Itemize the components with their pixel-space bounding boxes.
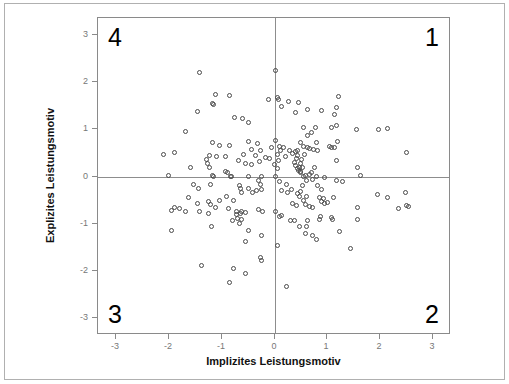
data-point bbox=[336, 94, 341, 99]
data-point bbox=[213, 92, 218, 97]
data-point bbox=[197, 70, 202, 75]
x-axis-label: Implizites Leistungsmotiv bbox=[97, 355, 450, 367]
y-tick-label: 0 bbox=[83, 171, 88, 181]
data-point bbox=[396, 206, 401, 211]
y-tick-label: -3 bbox=[80, 312, 88, 322]
data-point bbox=[297, 224, 302, 229]
data-point bbox=[197, 209, 202, 214]
data-point bbox=[355, 205, 360, 210]
data-point bbox=[331, 195, 336, 200]
data-point bbox=[224, 194, 229, 199]
data-point bbox=[232, 115, 237, 120]
data-point bbox=[199, 263, 204, 268]
data-point bbox=[207, 165, 212, 170]
data-point bbox=[301, 125, 306, 130]
data-point bbox=[340, 179, 345, 184]
data-point bbox=[183, 129, 188, 134]
data-point bbox=[210, 140, 215, 145]
data-point bbox=[273, 68, 278, 73]
data-point bbox=[406, 204, 411, 209]
data-point bbox=[286, 99, 291, 104]
data-point bbox=[309, 170, 314, 175]
data-point bbox=[209, 224, 214, 229]
data-point bbox=[334, 123, 339, 128]
data-point bbox=[211, 102, 216, 107]
x-tick-label: -1 bbox=[217, 341, 225, 351]
data-point bbox=[246, 174, 251, 179]
data-point bbox=[257, 159, 262, 164]
data-point bbox=[243, 161, 248, 166]
data-point bbox=[305, 107, 310, 112]
data-point bbox=[358, 173, 363, 178]
y-tick-label: -2 bbox=[80, 265, 88, 275]
data-point bbox=[283, 154, 288, 159]
data-point bbox=[213, 205, 218, 210]
y-tick-mark bbox=[92, 128, 97, 129]
data-point bbox=[302, 152, 307, 157]
data-point bbox=[195, 109, 200, 114]
data-point bbox=[226, 206, 231, 211]
data-point bbox=[260, 209, 265, 214]
data-point bbox=[329, 125, 334, 130]
data-point bbox=[348, 246, 353, 251]
data-point bbox=[259, 258, 264, 263]
x-tick-mark bbox=[326, 334, 327, 339]
data-point bbox=[249, 147, 254, 152]
y-tick-label: 1 bbox=[83, 123, 88, 133]
data-point bbox=[375, 192, 380, 197]
data-point bbox=[227, 143, 232, 148]
data-point bbox=[305, 218, 310, 223]
y-tick-mark bbox=[92, 223, 97, 224]
x-tick-label: -2 bbox=[164, 341, 172, 351]
x-tick-label: 0 bbox=[271, 341, 276, 351]
x-tick-label: 1 bbox=[323, 341, 328, 351]
data-point bbox=[188, 165, 193, 170]
data-point bbox=[337, 229, 342, 234]
quadrant-label-2: 2 bbox=[425, 302, 439, 327]
data-point bbox=[227, 280, 232, 285]
data-point bbox=[276, 158, 281, 163]
data-point bbox=[229, 174, 234, 179]
y-tick-mark bbox=[92, 176, 97, 177]
data-point bbox=[310, 177, 315, 182]
data-point bbox=[303, 231, 308, 236]
data-point bbox=[246, 228, 251, 233]
data-point bbox=[214, 154, 219, 159]
data-point bbox=[249, 162, 254, 167]
x-tick-mark bbox=[274, 334, 275, 339]
data-point bbox=[267, 156, 272, 161]
data-point bbox=[231, 266, 236, 271]
data-point bbox=[332, 145, 337, 150]
data-point bbox=[195, 201, 200, 206]
data-point bbox=[246, 120, 251, 125]
y-tick-label: 3 bbox=[83, 29, 88, 39]
data-point bbox=[259, 233, 264, 238]
data-point bbox=[250, 190, 255, 195]
data-point bbox=[166, 173, 171, 178]
data-point bbox=[177, 206, 182, 211]
data-point bbox=[332, 112, 337, 117]
x-tick-label: 3 bbox=[429, 341, 434, 351]
data-point bbox=[279, 104, 284, 109]
data-point bbox=[277, 179, 282, 184]
data-point bbox=[259, 187, 264, 192]
data-point bbox=[246, 139, 251, 144]
y-tick-label: -1 bbox=[80, 218, 88, 228]
data-point bbox=[279, 188, 284, 193]
data-point bbox=[258, 148, 263, 153]
data-point bbox=[169, 228, 174, 233]
data-point bbox=[240, 116, 245, 121]
data-point bbox=[310, 205, 315, 210]
data-point bbox=[354, 127, 359, 132]
data-point bbox=[253, 153, 258, 158]
data-point bbox=[279, 213, 284, 218]
data-point bbox=[269, 145, 274, 150]
data-point bbox=[313, 125, 318, 130]
y-tick-mark bbox=[92, 34, 97, 35]
data-point bbox=[334, 105, 339, 110]
data-point bbox=[335, 139, 340, 144]
data-point bbox=[404, 150, 409, 155]
data-point bbox=[300, 183, 305, 188]
data-point bbox=[186, 195, 191, 200]
data-point bbox=[293, 110, 298, 115]
